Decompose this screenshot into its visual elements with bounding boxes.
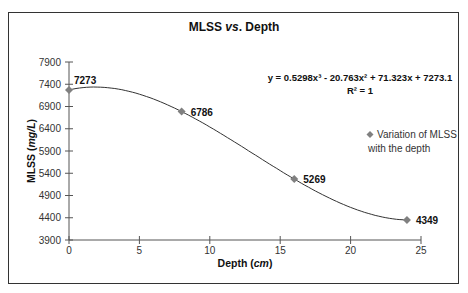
x-tick-label: 0 [66,245,72,256]
y-tick-label: 7900 [39,57,62,68]
legend: Variation of MLSS with the depth [367,129,458,154]
chart-title: MLSS vs. Depth [189,20,280,34]
data-point-label: 7273 [74,75,97,86]
y-tick-label: 6900 [39,101,62,112]
y-tick-label: 4900 [39,190,62,201]
x-tick-label: 10 [204,245,216,256]
x-tick-label: 5 [137,245,143,256]
x-tick-label: 20 [345,245,357,256]
legend-diamond-icon [367,131,374,138]
data-point-label: 5269 [303,174,326,185]
x-axis-label: Depth (cm) [218,257,273,269]
y-tick-label: 4400 [39,212,62,223]
r-squared: R² = 1 [347,85,374,96]
legend-line-1: Variation of MLSS [377,129,457,140]
data-point-marker [403,216,411,224]
y-axis-label: MLSS (mg/L) [25,119,37,183]
y-tick-label: 5900 [39,146,62,157]
y-tick-label: 3900 [39,235,62,246]
data-point-label: 4349 [416,215,439,226]
data-point-marker [65,86,73,94]
trendline-equation: y = 0.5298x³ - 20.763x² + 71.323x + 7273… [268,72,453,83]
x-tick-label: 25 [415,245,427,256]
legend-line-2: with the depth [367,143,430,154]
y-tick-label: 6400 [39,123,62,134]
data-point-marker [178,108,186,116]
trendline-curve [69,87,407,220]
y-tick-label: 7400 [39,79,62,90]
x-tick-label: 15 [275,245,287,256]
data-point-label: 6786 [191,107,214,118]
data-point-marker [290,175,298,183]
y-tick-label: 5400 [39,168,62,179]
chart-canvas: MLSS vs. Depth 3900440049005400590064006… [0,0,468,293]
